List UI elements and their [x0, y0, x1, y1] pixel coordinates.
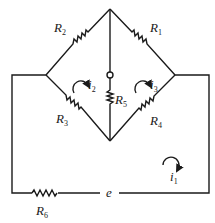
label-r5: R5 — [114, 92, 127, 109]
resistor-r2 — [46, 9, 110, 75]
resistor-r5 — [107, 9, 113, 141]
label-i3: i3 — [150, 77, 158, 94]
resistor-r3 — [46, 75, 110, 141]
label-r6: R6 — [35, 203, 48, 220]
label-r3: R3 — [55, 111, 68, 128]
resistor-r1 — [110, 9, 175, 75]
label-r1: R1 — [149, 20, 162, 37]
label-i1: i1 — [170, 169, 178, 186]
label-source-e: e — [106, 185, 112, 200]
label-r4: R4 — [149, 113, 162, 130]
current-loop-i1-icon — [163, 157, 179, 169]
current-loop-i2-icon — [73, 81, 88, 93]
resistor-r4 — [110, 75, 175, 141]
bridge-circuit-diagram: R2 R1 R3 R4 R5 R6 i2 i3 i1 e — [0, 0, 215, 223]
node-terminal — [107, 72, 113, 78]
current-loop-i3-icon — [135, 81, 150, 93]
label-i2: i2 — [88, 77, 96, 94]
label-r2: R2 — [53, 20, 66, 37]
